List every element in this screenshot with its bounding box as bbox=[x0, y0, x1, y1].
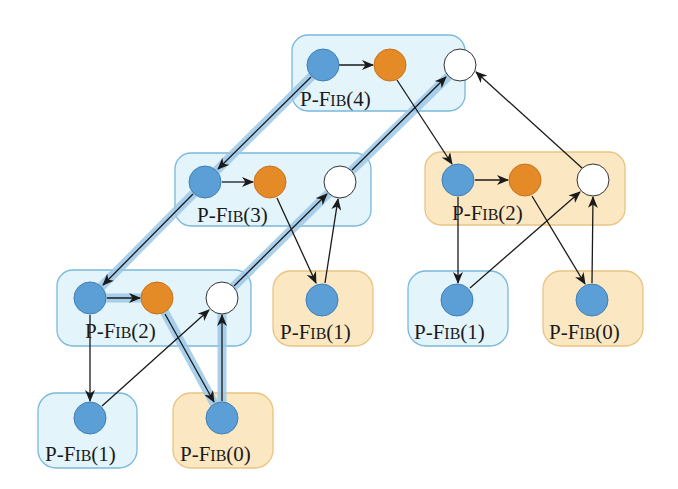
strand-white-fib2l bbox=[206, 282, 238, 314]
strand-white-fib3 bbox=[324, 166, 356, 198]
strand-blue-fib0b bbox=[206, 402, 238, 434]
dag-edges bbox=[90, 65, 593, 406]
strand-blue-fib2r bbox=[442, 164, 474, 196]
strand-blue-fib0a bbox=[576, 284, 608, 316]
strand-blue-fib3 bbox=[189, 166, 221, 198]
strand-white-fib4 bbox=[444, 49, 476, 81]
strand-blue-fib1b bbox=[441, 284, 473, 316]
strand-orange-fib2r bbox=[509, 164, 541, 196]
computation-dag: P-FIB(4) P-FIB(3) P-FIB(2) P-FIB(2) P-FI… bbox=[0, 0, 678, 489]
strand-blue-fib1a bbox=[306, 284, 338, 316]
strand-blue-fib2l bbox=[74, 282, 106, 314]
strand-orange-fib4 bbox=[374, 49, 406, 81]
strand-orange-fib2l bbox=[141, 282, 173, 314]
strand-blue-fib1c bbox=[74, 402, 106, 434]
strand-blue-fib4 bbox=[307, 49, 339, 81]
strand-white-fib2r bbox=[577, 164, 609, 196]
strand-orange-fib3 bbox=[254, 166, 286, 198]
